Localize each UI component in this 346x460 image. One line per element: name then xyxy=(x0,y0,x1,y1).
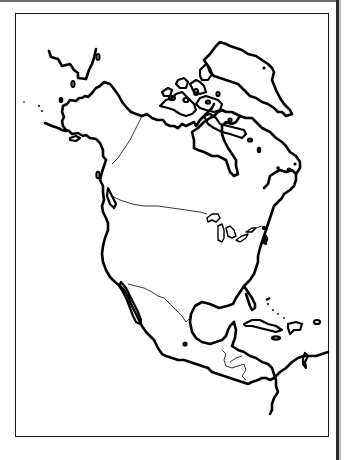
greenland xyxy=(204,42,292,116)
great-lakes xyxy=(207,214,256,242)
west-coast xyxy=(96,160,124,290)
marker-mexico-city xyxy=(182,341,187,346)
north-america-map xyxy=(0,0,346,460)
us-canada-border xyxy=(112,196,207,214)
alaska-canada-border xyxy=(112,116,142,164)
hispaniola xyxy=(288,322,302,334)
mexico xyxy=(119,282,208,368)
arctic-archipelago xyxy=(160,64,260,152)
cuba xyxy=(244,320,282,332)
borders xyxy=(112,116,262,380)
puget-sound xyxy=(107,188,116,208)
gulf-coast xyxy=(190,302,328,414)
alaska xyxy=(23,49,178,160)
marker-east-coast-1 xyxy=(262,226,266,230)
puerto-rico xyxy=(314,320,320,324)
east-coast xyxy=(233,194,284,310)
jamaica xyxy=(272,336,280,339)
marker-vancouver-island xyxy=(96,172,99,178)
